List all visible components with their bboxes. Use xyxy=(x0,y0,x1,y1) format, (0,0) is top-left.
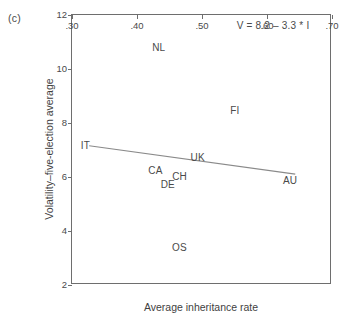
y-axis-label: Volatility–five-election average xyxy=(44,14,55,284)
figure-panel-c: (c) 24681012 .30.40.50.60.70 ITNLFIUKCAC… xyxy=(0,0,348,322)
data-point-label-de: DE xyxy=(161,180,175,190)
data-point-label-nl: NL xyxy=(152,43,165,53)
x-axis-label: Average inheritance rate xyxy=(71,302,331,313)
data-point-label-uk: UK xyxy=(191,153,205,163)
data-point-label-au: AU xyxy=(283,176,297,186)
data-point-label-os: OS xyxy=(172,243,187,253)
data-point-label-ca: CA xyxy=(148,166,162,176)
regression-equation: V = 8.2 – 3.3 * I xyxy=(237,21,310,31)
data-point-label-it: IT xyxy=(81,141,90,151)
data-point-label-fi: FI xyxy=(230,106,239,116)
